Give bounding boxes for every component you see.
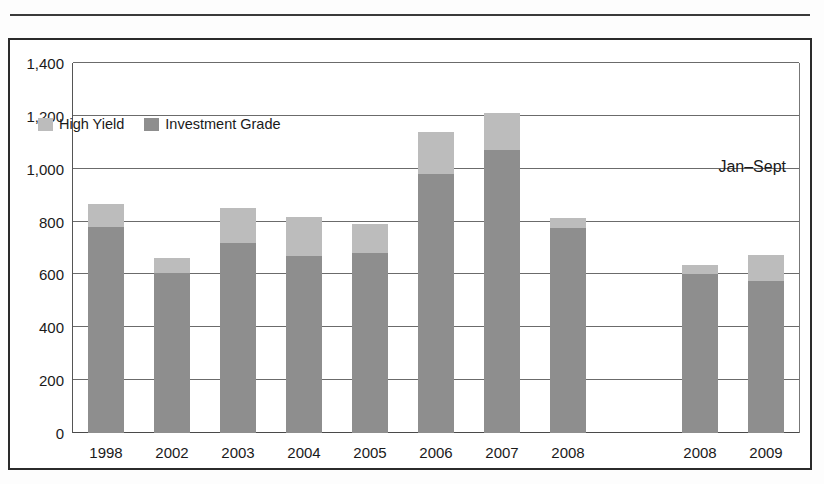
figure-page: 02004006008001,0001,2001,400 19982002200… — [0, 0, 824, 484]
bar-segment-high-yield — [220, 208, 257, 242]
legend-label: Investment Grade — [165, 116, 280, 132]
x-axis-tick-label: 2002 — [155, 444, 188, 461]
bar-segment-investment-grade — [220, 243, 257, 433]
bar-segment-high-yield — [748, 255, 785, 281]
figure-frame: 02004006008001,0001,2001,400 19982002200… — [8, 38, 812, 470]
x-axis-tick-label: 2005 — [353, 444, 386, 461]
bar-segment-investment-grade — [286, 256, 323, 433]
bar-segment-investment-grade — [748, 281, 785, 433]
y-axis-tick-label: 1,000 — [26, 160, 64, 177]
bar-segment-high-yield — [154, 258, 191, 273]
legend-swatch-high — [38, 118, 53, 131]
legend-swatch-ig — [144, 118, 159, 131]
x-axis-tick-label: 2007 — [485, 444, 518, 461]
bar-group: 2005 — [352, 224, 389, 433]
x-axis-tick-label: 2004 — [287, 444, 320, 461]
bar-group: 2008 — [550, 218, 587, 433]
bar-segment-investment-grade — [352, 253, 389, 433]
y-axis-tick-label: 800 — [39, 213, 64, 230]
x-axis-tick-label: 1998 — [89, 444, 122, 461]
bar-group: 2008 — [682, 265, 719, 433]
period-annotation: Jan–Sept — [718, 158, 786, 176]
legend-entry: High Yield — [38, 116, 124, 132]
bar-segment-investment-grade — [418, 174, 455, 433]
bar-group: 1998 — [88, 204, 125, 433]
bar-group: 2002 — [154, 258, 191, 433]
y-axis-tick-label: 0 — [56, 425, 64, 442]
top-horizontal-rule — [10, 14, 810, 16]
bar-segment-investment-grade — [682, 274, 719, 433]
x-axis-tick-label: 2008 — [683, 444, 716, 461]
bar-group: 2009 — [748, 255, 785, 433]
bar-segment-high-yield — [88, 204, 125, 226]
chart-legend: High YieldInvestment Grade — [38, 116, 292, 132]
x-axis-tick-label: 2003 — [221, 444, 254, 461]
y-axis-tick-label: 1,400 — [26, 55, 64, 72]
bar-group: 2004 — [286, 217, 323, 433]
bar-segment-high-yield — [418, 132, 455, 174]
bar-segment-high-yield — [286, 217, 323, 256]
y-axis-tick-label: 200 — [39, 372, 64, 389]
legend-entry: Investment Grade — [144, 116, 280, 132]
bar-segment-high-yield — [550, 218, 587, 228]
x-axis-tick-label: 2008 — [551, 444, 584, 461]
y-axis-tick-label: 600 — [39, 266, 64, 283]
bar-group: 2007 — [484, 113, 521, 433]
bar-segment-investment-grade — [154, 273, 191, 433]
bar-segment-investment-grade — [484, 150, 521, 433]
bar-segment-high-yield — [682, 265, 719, 274]
legend-label: High Yield — [59, 116, 124, 132]
x-axis-tick-label: 2009 — [749, 444, 782, 461]
bar-segment-high-yield — [352, 224, 389, 253]
bar-group: 2006 — [418, 132, 455, 433]
bar-segment-investment-grade — [550, 228, 587, 433]
bar-group: 2003 — [220, 208, 257, 433]
x-axis-tick-label: 2006 — [419, 444, 452, 461]
y-axis-tick-label: 400 — [39, 319, 64, 336]
bar-segment-investment-grade — [88, 227, 125, 433]
bar-segment-high-yield — [484, 113, 521, 150]
